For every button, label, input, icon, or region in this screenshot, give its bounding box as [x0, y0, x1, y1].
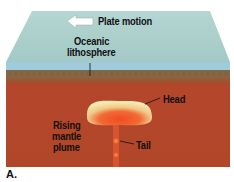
cross-section-illustration [0, 0, 234, 182]
mantle-plume-diagram: Plate motion Oceanic lithosphere Head Ri… [0, 0, 234, 182]
plume-head [87, 101, 152, 125]
figure-caption: A. [6, 168, 17, 180]
rising-label-line3: plume [53, 142, 80, 153]
oceanic-label-line2: lithosphere [67, 47, 116, 58]
plate-motion-label: Plate motion [98, 16, 152, 27]
tail-label: Tail [136, 140, 151, 151]
head-label: Head [163, 94, 185, 105]
water-band [6, 62, 230, 70]
